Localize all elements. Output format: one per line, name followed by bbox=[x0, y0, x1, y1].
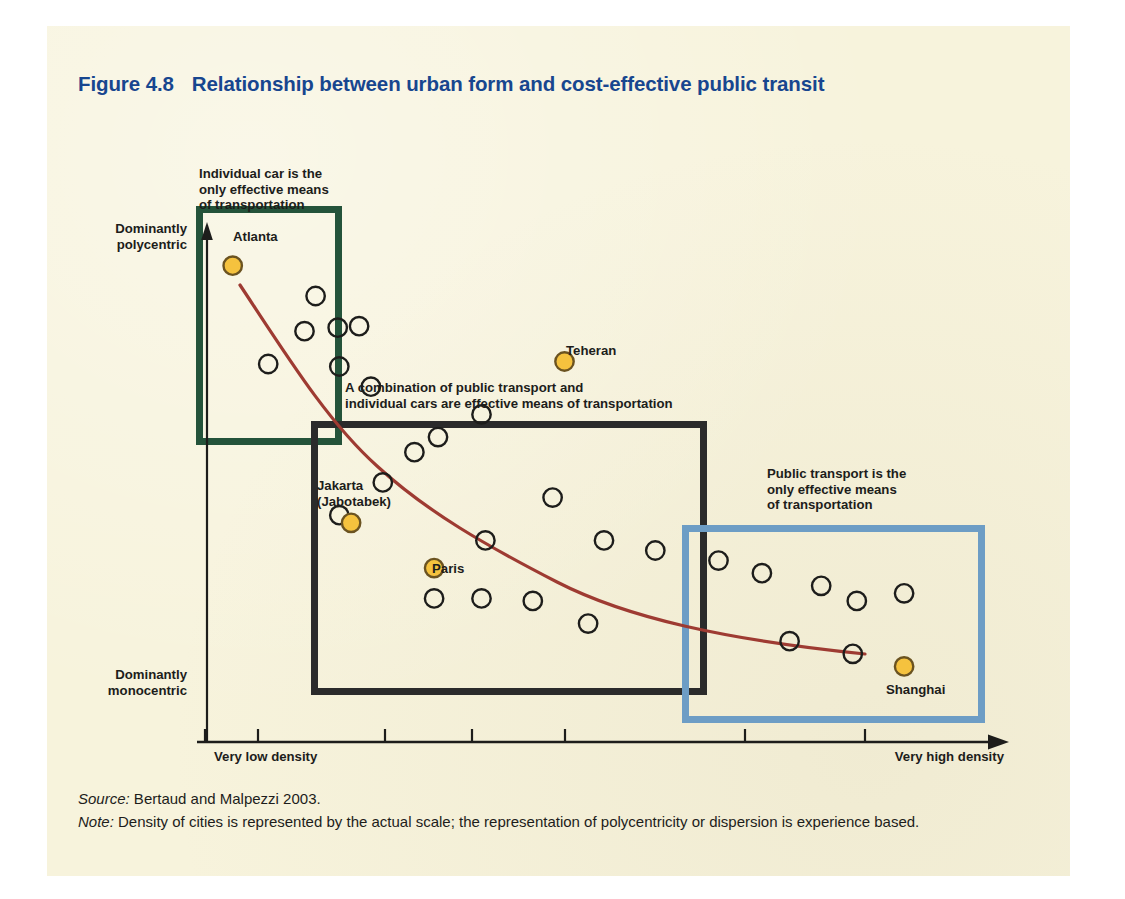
x-axis-left-label: Very low density bbox=[214, 749, 317, 765]
scatter-point bbox=[543, 488, 561, 506]
point-label-jakarta: Jakarta (Jabotabek) bbox=[317, 478, 391, 509]
y-axis-top-label: Dominantly polycentric bbox=[57, 221, 187, 252]
scatter-point-jakarta bbox=[342, 514, 360, 532]
scatter-point-atlanta bbox=[224, 257, 242, 275]
annotation-green: Individual car is the only effective mea… bbox=[199, 166, 329, 213]
scatter-point bbox=[295, 322, 313, 340]
y-axis bbox=[201, 222, 213, 742]
chart-canvas: Individual car is the only effective mea… bbox=[47, 26, 1070, 876]
scatter-point bbox=[848, 592, 866, 610]
source-label: Source: bbox=[78, 790, 130, 807]
scatter-point bbox=[753, 564, 771, 582]
scatter-point bbox=[595, 531, 613, 549]
scatter-point bbox=[472, 589, 490, 607]
scatter-point bbox=[350, 317, 368, 335]
point-label-teheran: Teheran bbox=[566, 343, 616, 358]
scatter-point bbox=[330, 357, 348, 375]
scatter-point bbox=[646, 541, 664, 559]
scatter-point bbox=[709, 551, 727, 569]
scatter-point bbox=[429, 428, 447, 446]
point-label-shanghai: Shanghai bbox=[886, 682, 945, 697]
scatter-point bbox=[895, 584, 913, 602]
source-line: Source: Bertaud and Malpezzi 2003. bbox=[78, 788, 1038, 811]
scatter-point bbox=[306, 287, 324, 305]
scatter-point bbox=[425, 589, 443, 607]
scatter-point bbox=[524, 592, 542, 610]
point-label-atlanta: Atlanta bbox=[233, 229, 278, 244]
figure-page: Figure 4.8Relationship between urban for… bbox=[0, 0, 1125, 899]
note-label: Note: bbox=[78, 813, 114, 830]
scatter-point bbox=[259, 355, 277, 373]
annotation-blue: Public transport is the only effective m… bbox=[767, 466, 906, 513]
note-line: Note: Density of cities is represented b… bbox=[78, 811, 1038, 834]
note-text: Density of cities is represented by the … bbox=[114, 813, 919, 830]
x-axis bbox=[197, 729, 1009, 750]
scatter-point bbox=[579, 614, 597, 632]
x-axis-right-label: Very high density bbox=[747, 749, 1004, 765]
scatter-point bbox=[329, 319, 347, 337]
y-axis-bottom-label: Dominantly monocentric bbox=[57, 667, 187, 698]
scatter-point bbox=[780, 632, 798, 650]
point-label-paris: Paris bbox=[432, 561, 464, 576]
scatter-point-shanghai bbox=[895, 657, 913, 675]
scatter-point bbox=[812, 577, 830, 595]
annotation-dark: A combination of public transport and in… bbox=[345, 380, 673, 411]
scatter-point bbox=[405, 443, 423, 461]
source-text: Bertaud and Malpezzi 2003. bbox=[130, 790, 321, 807]
figure-footnotes: Source: Bertaud and Malpezzi 2003. Note:… bbox=[78, 788, 1038, 833]
